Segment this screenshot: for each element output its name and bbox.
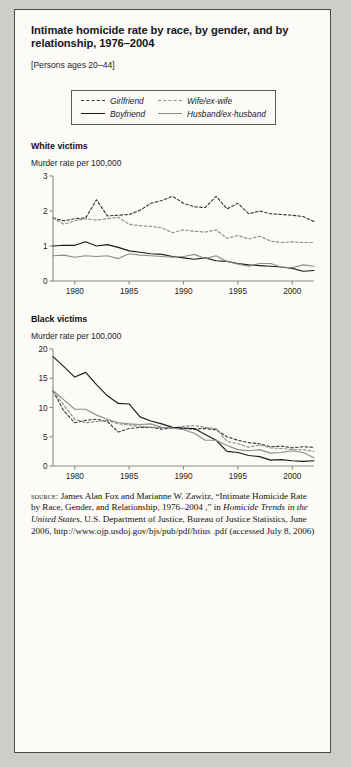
- legend-label-girlfriend: Girlfriend: [110, 96, 144, 106]
- series-line-husband-ex-husband: [53, 254, 314, 268]
- svg-text:5: 5: [43, 433, 48, 442]
- panel-axis-label-white: Murder rate per 100,000: [31, 158, 316, 168]
- panel-axis-label-black: Murder rate per 100,000: [31, 331, 316, 341]
- svg-text:0: 0: [43, 277, 48, 286]
- source-note: source: James Alan Fox and Marianne W. Z…: [31, 491, 316, 537]
- series-line-girlfriend: [53, 196, 314, 221]
- legend-wrapper: Girlfriend Wife/ex-wife Boyfriend Husban…: [31, 90, 316, 125]
- series-line-boyfriend: [53, 356, 314, 461]
- legend-swatch-dashed-gray-icon: [158, 100, 182, 101]
- legend-label-husband: Husband/ex-husband: [187, 109, 266, 119]
- panel-black-victims: Black victims Murder rate per 100,000 05…: [31, 314, 316, 483]
- svg-text:20: 20: [38, 345, 48, 354]
- svg-text:15: 15: [38, 374, 48, 383]
- subtitle: [Persons ages 20–44]: [31, 60, 316, 70]
- svg-text:1995: 1995: [229, 287, 248, 296]
- svg-text:1: 1: [43, 242, 48, 251]
- svg-text:1990: 1990: [174, 472, 193, 481]
- panel-title-black: Black victims: [31, 314, 316, 324]
- chart-white-victims: 012319801985199019952000: [31, 170, 316, 298]
- svg-text:10: 10: [38, 403, 48, 412]
- legend-swatch-dashed-dark-icon: [81, 100, 105, 101]
- page-title: Intimate homicide rate by race, by gende…: [31, 24, 316, 51]
- svg-text:1980: 1980: [66, 472, 85, 481]
- legend-label-boyfriend: Boyfriend: [110, 109, 145, 119]
- svg-text:1980: 1980: [66, 287, 85, 296]
- legend-item-wife: Wife/ex-wife: [158, 96, 266, 106]
- series-line-wife-ex-wife: [53, 217, 314, 242]
- legend-item-boyfriend: Boyfriend: [81, 109, 145, 119]
- series-line-wife-ex-wife: [53, 391, 314, 451]
- svg-text:1985: 1985: [120, 287, 139, 296]
- figure-card: Intimate homicide rate by race, by gende…: [14, 9, 331, 753]
- svg-text:2: 2: [43, 207, 48, 216]
- svg-text:2000: 2000: [283, 472, 302, 481]
- panel-white-victims: White victims Murder rate per 100,000 01…: [31, 141, 316, 298]
- svg-text:0: 0: [43, 462, 48, 471]
- chart-black-svg: 0510152019801985199019952000: [31, 343, 318, 483]
- legend-item-girlfriend: Girlfriend: [81, 96, 145, 106]
- legend-label-wife: Wife/ex-wife: [187, 96, 232, 106]
- chart-legend: Girlfriend Wife/ex-wife Boyfriend Husban…: [71, 90, 276, 125]
- panel-title-white: White victims: [31, 141, 316, 151]
- legend-swatch-solid-dark-icon: [81, 113, 105, 114]
- svg-text:1990: 1990: [174, 287, 193, 296]
- svg-text:1995: 1995: [229, 472, 248, 481]
- svg-text:1985: 1985: [120, 472, 139, 481]
- legend-swatch-solid-gray-icon: [158, 113, 182, 114]
- svg-text:3: 3: [43, 172, 48, 181]
- chart-black-victims: 0510152019801985199019952000: [31, 343, 316, 483]
- legend-item-husband: Husband/ex-husband: [158, 109, 266, 119]
- chart-white-svg: 012319801985199019952000: [31, 170, 318, 298]
- svg-text:2000: 2000: [283, 287, 302, 296]
- source-label: source:: [31, 492, 58, 501]
- series-line-girlfriend: [53, 391, 314, 448]
